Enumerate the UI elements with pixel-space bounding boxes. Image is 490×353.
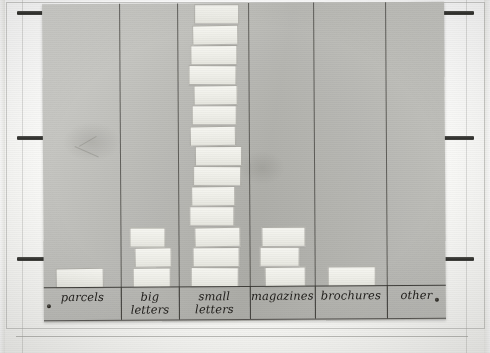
- photo-scene: parcelsbigletterssmalllettersmagazinesbr…: [0, 0, 490, 353]
- category-label-line: letters: [195, 303, 234, 316]
- sticker-small-letters-10: [194, 85, 238, 106]
- sticker-small-letters-3: [194, 226, 240, 247]
- category-label-other: other: [387, 286, 446, 321]
- sticker-small-letters-6: [193, 166, 241, 187]
- category-label-line: big: [130, 290, 169, 303]
- sticker-small-letters-2: [193, 247, 240, 268]
- label-divider-3: [250, 287, 251, 319]
- category-label-line: magazines: [251, 290, 314, 303]
- label-divider-4: [315, 287, 316, 319]
- category-label-big-letters: bigletters: [121, 287, 179, 322]
- category-label-line: small: [195, 290, 234, 303]
- label-divider-2: [179, 287, 180, 319]
- sticker-small-letters-5: [191, 186, 235, 207]
- sticker-small-letters-11: [188, 65, 236, 86]
- sticker-brochures-1: [328, 266, 376, 286]
- category-label-line: letters: [131, 303, 170, 316]
- category-label-line: brochures: [321, 289, 381, 302]
- plot-area: [42, 2, 446, 322]
- sticker-small-letters-14: [194, 5, 239, 25]
- sticker-small-letters-12: [190, 45, 237, 66]
- tack-bottom-left: [47, 304, 51, 308]
- sticker-magazines-3: [261, 226, 305, 247]
- sticker-magazines-2: [260, 247, 300, 268]
- category-label-magazines: magazines: [250, 287, 315, 322]
- label-divider-5: [387, 286, 388, 318]
- backdrop-left-edge: [0, 0, 5, 353]
- sticker-small-letters-7: [195, 146, 242, 167]
- category-label-line: other: [400, 289, 432, 302]
- category-label-brochures: brochures: [315, 286, 387, 321]
- column-divider-5: [385, 2, 388, 318]
- paper-chart-poster: parcelsbigletterssmalllettersmagazinesbr…: [42, 2, 446, 322]
- category-label-small-letters: smallletters: [179, 287, 250, 322]
- label-divider-1: [121, 288, 122, 320]
- sticker-big-letters-3: [129, 227, 165, 247]
- column-divider-2: [177, 3, 180, 319]
- category-label-strip: parcelsbigletterssmalllettersmagazinesbr…: [44, 286, 446, 320]
- sticker-parcels-1: [56, 268, 104, 289]
- sticker-small-letters-13: [192, 24, 238, 45]
- sticker-small-letters-1: [191, 267, 239, 288]
- tack-bottom-right: [435, 298, 439, 302]
- sticker-small-letters-4: [189, 207, 234, 227]
- sticker-big-letters-1: [133, 267, 171, 288]
- sticker-small-letters-9: [192, 106, 237, 126]
- sticker-small-letters-8: [190, 125, 236, 146]
- photo-bottom-rule: [16, 336, 468, 337]
- category-label-parcels: parcels: [44, 288, 121, 323]
- category-label-line: parcels: [61, 291, 104, 304]
- sticker-magazines-1: [265, 267, 306, 288]
- sticker-big-letters-2: [134, 247, 171, 268]
- column-divider-1: [119, 4, 122, 320]
- column-divider-4: [313, 3, 316, 319]
- column-divider-3: [248, 3, 251, 319]
